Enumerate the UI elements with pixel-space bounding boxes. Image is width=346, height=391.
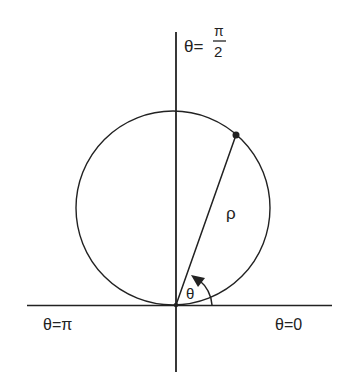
theta-zero-label: θ=0 [275,316,302,333]
half-pi-denominator-label: 2 [214,43,222,60]
theta-half-pi-prefix-label: θ= [184,37,203,56]
point-marker [233,132,240,139]
theta-pi-label: θ=π [43,316,72,333]
origin-marker [174,303,178,307]
polar-diagram: θ= π 2 θ=π θ=0 ρ θ [0,0,346,391]
theta-angle-label: θ [186,285,194,302]
rho-label: ρ [226,204,236,223]
half-pi-numerator-label: π [214,23,224,39]
circle-curve [76,111,270,305]
